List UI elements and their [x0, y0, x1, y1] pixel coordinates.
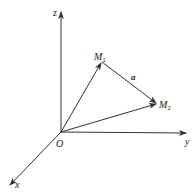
y-axis-label: y [184, 136, 190, 147]
z-axis-label: z [52, 7, 57, 18]
origin-label: O [56, 138, 63, 149]
x-axis [10, 132, 61, 185]
vector-a-label: a [131, 72, 136, 82]
point-m1-label: M1 [93, 51, 106, 64]
x-axis-label: x [14, 179, 20, 190]
vector-a [102, 62, 156, 103]
point-m2-label: M2 [158, 99, 171, 112]
y-axis [61, 132, 186, 133]
vector-diagram: z y x O M1 M2 a [0, 0, 195, 194]
